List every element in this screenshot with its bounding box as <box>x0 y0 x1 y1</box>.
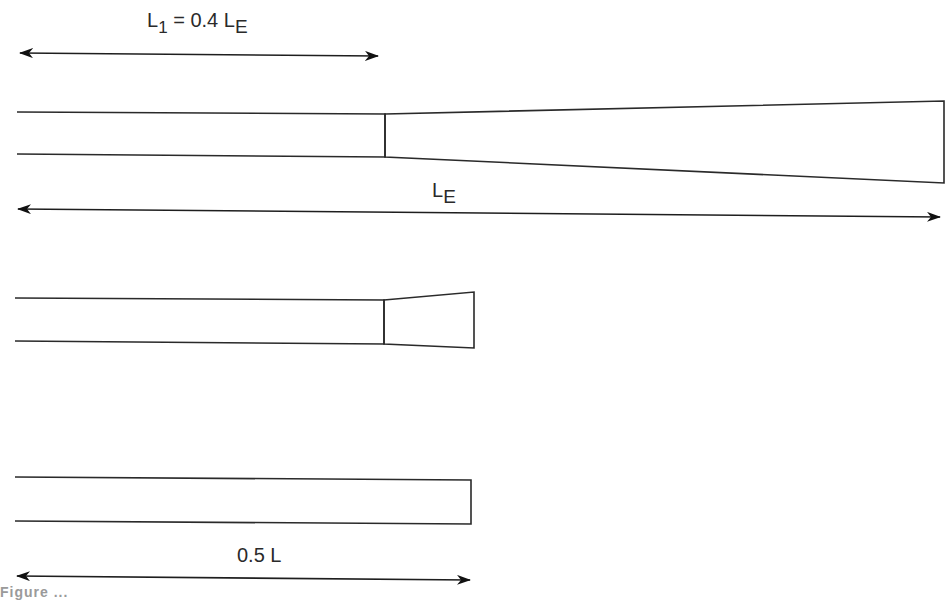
shape-long-taper <box>17 101 944 183</box>
dimension-label-le: LE <box>432 179 456 207</box>
dimension-label-half-l: 0.5 L <box>237 544 281 566</box>
uniform-section-1 <box>17 112 385 157</box>
uniform-section-3 <box>15 477 471 524</box>
shape-short-taper <box>15 292 474 348</box>
uniform-section-2 <box>15 298 384 344</box>
dimension-arrow-l1 <box>20 53 378 56</box>
dimension-arrow-half-l <box>17 576 470 580</box>
figure-caption: Figure ... <box>0 584 68 600</box>
taper-section-1 <box>385 101 944 183</box>
dimension-label-l1: L1 = 0.4 LE <box>147 9 248 37</box>
shape-uniform <box>15 477 471 524</box>
taper-section-2 <box>384 292 474 348</box>
dimension-arrow-le <box>18 209 940 217</box>
